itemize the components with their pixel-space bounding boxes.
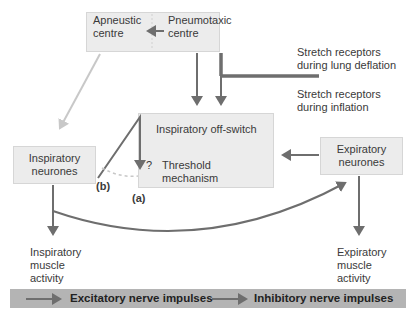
expiratory-activity-label: Expiratorymuscleactivity	[337, 246, 387, 285]
inspiratory-neurones-label: Inspiratoryneurones	[13, 152, 96, 178]
apneustic-label: Apneusticcentre	[93, 14, 141, 40]
legend-bar: Excitatory nerve impulses Inhibitory ner…	[10, 289, 406, 308]
stretch-deflation-label: Stretch receptorsduring lung deflation	[297, 46, 396, 72]
pneumotaxic-label: Pneumotaxiccentre	[168, 14, 232, 40]
threshold-label: Thresholdmechanism	[162, 159, 218, 185]
question-mark: ?	[146, 159, 152, 172]
legend-inhibitory: Inhibitory nerve impulses	[254, 292, 393, 304]
inspiratory-activity-label: Inspiratorymuscleactivity	[30, 246, 81, 285]
expiratory-neurones-label: Expiratoryneurones	[320, 143, 403, 169]
stretch-inflation-label: Stretch receptorsduring inflation	[297, 88, 381, 114]
label-a: (a)	[132, 192, 145, 205]
label-b: (b)	[96, 180, 110, 193]
legend-excitatory: Excitatory nerve impulses	[70, 292, 213, 304]
off-switch-title: Inspiratory off-switch	[156, 123, 257, 136]
